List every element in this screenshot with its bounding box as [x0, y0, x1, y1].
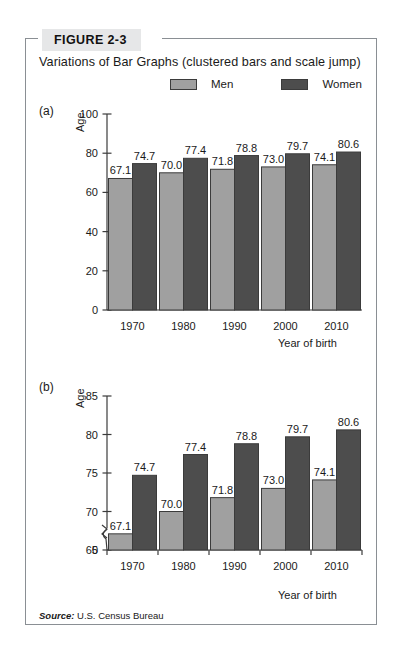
- svg-text:79.7: 79.7: [287, 140, 308, 152]
- chart-panel-b: (b) Age 0657075808567.174.7197070.077.41…: [25, 374, 377, 606]
- panel-b-x-axis-title: Year of birth: [278, 589, 337, 601]
- svg-text:80: 80: [86, 147, 98, 159]
- svg-text:78.8: 78.8: [236, 430, 257, 442]
- svg-text:2010: 2010: [324, 560, 348, 572]
- svg-text:100: 100: [80, 108, 98, 120]
- svg-text:2010: 2010: [324, 320, 348, 332]
- legend: Men Women: [170, 78, 362, 90]
- svg-text:1970: 1970: [120, 320, 144, 332]
- svg-text:77.4: 77.4: [185, 144, 206, 156]
- legend-swatch-men-icon: [170, 79, 197, 90]
- svg-text:0: 0: [92, 304, 98, 316]
- svg-text:1980: 1980: [171, 320, 195, 332]
- svg-text:78.8: 78.8: [236, 142, 257, 154]
- svg-text:77.4: 77.4: [185, 441, 206, 453]
- svg-text:71.8: 71.8: [212, 484, 233, 496]
- svg-text:70.0: 70.0: [161, 159, 182, 171]
- figure-title: Variations of Bar Graphs (clustered bars…: [39, 55, 361, 69]
- svg-text:73.0: 73.0: [263, 153, 284, 165]
- svg-text:2000: 2000: [273, 320, 297, 332]
- svg-text:74.7: 74.7: [134, 461, 155, 473]
- svg-text:40: 40: [86, 226, 98, 238]
- svg-text:80: 80: [86, 429, 98, 441]
- panel-b-plot: 0657075808567.174.7197070.077.4198071.87…: [25, 374, 377, 606]
- svg-text:60: 60: [86, 186, 98, 198]
- panel-a-x-axis-title: Year of birth: [278, 337, 337, 349]
- svg-text:2000: 2000: [273, 560, 297, 572]
- svg-text:74.1: 74.1: [314, 466, 335, 478]
- legend-swatch-women-icon: [281, 79, 308, 90]
- svg-text:1990: 1990: [222, 560, 246, 572]
- svg-text:67.1: 67.1: [110, 164, 131, 176]
- svg-text:75: 75: [86, 467, 98, 479]
- svg-text:1990: 1990: [222, 320, 246, 332]
- svg-text:67.1: 67.1: [110, 520, 131, 532]
- source-value: U.S. Census Bureau: [74, 610, 163, 621]
- figure-tag: FIGURE 2-3: [42, 29, 141, 51]
- source-label: Source:: [39, 610, 74, 621]
- svg-text:70.0: 70.0: [161, 498, 182, 510]
- svg-text:1970: 1970: [120, 560, 144, 572]
- legend-item-women: Women: [281, 78, 361, 90]
- svg-text:79.7: 79.7: [287, 423, 308, 435]
- legend-label-men: Men: [211, 78, 233, 90]
- legend-label-women: Women: [322, 78, 361, 90]
- chart-panel-a: (a) Age 02040608010067.174.7197070.077.4…: [25, 98, 377, 356]
- svg-text:65: 65: [86, 544, 98, 556]
- svg-text:74.7: 74.7: [134, 150, 155, 162]
- panel-a-plot: 02040608010067.174.7197070.077.4198071.8…: [25, 98, 377, 356]
- source-note: Source: U.S. Census Bureau: [39, 610, 164, 621]
- svg-text:73.0: 73.0: [263, 474, 284, 486]
- svg-text:20: 20: [86, 265, 98, 277]
- svg-text:85: 85: [86, 390, 98, 402]
- svg-text:71.8: 71.8: [212, 155, 233, 167]
- svg-text:80.6: 80.6: [338, 416, 359, 428]
- svg-text:70: 70: [86, 506, 98, 518]
- legend-item-men: Men: [170, 78, 233, 90]
- svg-text:80.6: 80.6: [338, 138, 359, 150]
- svg-text:1980: 1980: [171, 560, 195, 572]
- svg-text:74.1: 74.1: [314, 151, 335, 163]
